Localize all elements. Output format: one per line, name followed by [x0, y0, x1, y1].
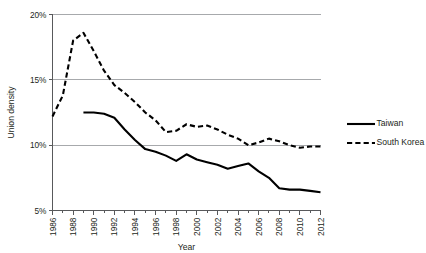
x-tick-label-1994: 1994 — [130, 217, 140, 236]
chart-canvas: 5%10%15%20%19861988199019921994199619982… — [0, 0, 426, 253]
y-tick-label-5%: 5% — [35, 206, 48, 216]
legend-label-taiwan: Taiwan — [377, 118, 404, 128]
x-tick-label-2010: 2010 — [295, 217, 305, 236]
x-tick-label-1990: 1990 — [89, 217, 99, 236]
y-axis-title: Union density — [6, 86, 16, 139]
x-tick-label-1996: 1996 — [151, 217, 161, 236]
x-tick-label-1992: 1992 — [109, 217, 119, 236]
x-tick-label-2006: 2006 — [254, 217, 264, 236]
series-line-south-korea — [53, 33, 321, 148]
y-tick-label-10%: 10% — [30, 140, 47, 150]
series-line-taiwan — [83, 113, 320, 193]
union-density-line-chart: 5%10%15%20%19861988199019921994199619982… — [0, 0, 426, 253]
x-tick-label-2000: 2000 — [192, 217, 202, 236]
x-tick-label-2002: 2002 — [213, 217, 223, 236]
y-tick-label-15%: 15% — [30, 75, 47, 85]
x-tick-label-2008: 2008 — [274, 217, 284, 236]
legend-label-south-korea: South Korea — [377, 137, 425, 147]
x-tick-label-1988: 1988 — [68, 217, 78, 236]
x-tick-label-2004: 2004 — [233, 217, 243, 236]
y-tick-label-20%: 20% — [30, 10, 47, 20]
x-tick-label-1998: 1998 — [171, 217, 181, 236]
x-tick-label-1986: 1986 — [48, 217, 58, 236]
x-axis-title: Year — [178, 242, 196, 252]
x-tick-label-2012: 2012 — [316, 217, 326, 236]
